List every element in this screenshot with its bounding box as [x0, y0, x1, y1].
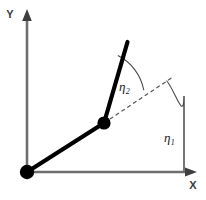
link-1 [27, 123, 104, 172]
reference-lines-group [104, 77, 184, 172]
x-axis-arrowhead [185, 167, 197, 176]
x-axis-label: X [189, 179, 197, 191]
eta-1-arc [167, 81, 185, 172]
kinematics-diagram: Y X η2 [0, 0, 206, 200]
base-joint [20, 165, 34, 179]
elbow-joint [97, 116, 110, 129]
eta-1-subscript: 1 [171, 138, 175, 147]
eta-2-subscript: 2 [126, 87, 130, 96]
eta-2-symbol: η [119, 79, 125, 94]
diagram-canvas: Y X η2 [0, 0, 206, 200]
eta-1-symbol: η [164, 130, 170, 145]
y-axis-label: Y [6, 8, 14, 20]
axes-group: Y X [6, 8, 197, 191]
angle-arcs-group [118, 56, 184, 172]
angle-labels-group: η2 η1 [119, 79, 175, 147]
y-axis-arrowhead [22, 9, 32, 21]
eta-1-label: η1 [164, 130, 175, 147]
links-group [27, 42, 128, 172]
eta-2-label: η2 [119, 79, 130, 96]
